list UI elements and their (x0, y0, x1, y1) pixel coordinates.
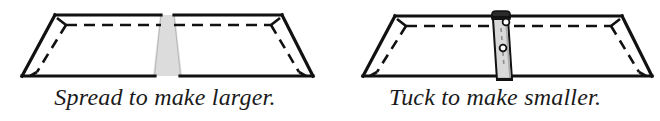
tuck-illustration (330, 0, 660, 86)
table-top-tuck-diagram (330, 0, 660, 86)
upper-pin-hole (503, 19, 510, 26)
table-top-spread-diagram (0, 0, 330, 86)
panel-spread: Spread to make larger. (0, 0, 330, 121)
caption-tuck: Tuck to make smaller. (330, 82, 660, 112)
instruction-figure: Spread to make larger. (0, 0, 660, 121)
spread-illustration (0, 0, 330, 86)
caption-spread: Spread to make larger. (0, 82, 330, 112)
lower-pin-hole (500, 45, 507, 52)
panel-tuck: Tuck to make smaller. (330, 0, 660, 121)
